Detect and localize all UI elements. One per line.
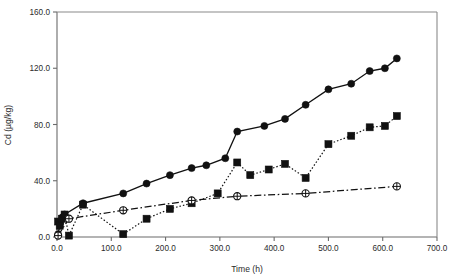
series-path-filled-circle-solid: [58, 58, 397, 234]
x-axis-title: Time (h): [231, 264, 263, 274]
x-tick-label: 200.0: [155, 244, 176, 253]
data-point-marker: [366, 68, 373, 75]
series-path-open-circle-cross-dashdot: [58, 186, 397, 235]
data-point-marker: [302, 174, 309, 181]
series-open-circle-cross-dashdot: [54, 183, 400, 239]
y-tick-label: 40.0: [34, 177, 50, 186]
series-path-filled-square-dotted: [58, 116, 397, 236]
y-tick-label: 80.0: [34, 121, 50, 130]
y-axis-title: Cd (µg/kg): [3, 105, 13, 145]
series-filled-circle-solid: [55, 55, 401, 238]
data-point-marker: [120, 231, 127, 238]
y-tick-label: 0.0: [39, 233, 51, 242]
data-point-marker: [166, 172, 173, 179]
x-tick-label: 300.0: [210, 244, 231, 253]
data-point-marker: [234, 128, 241, 135]
data-point-marker: [214, 190, 221, 197]
x-tick-label: 500.0: [318, 244, 339, 253]
data-point-marker: [222, 155, 229, 162]
data-point-marker: [166, 205, 173, 212]
x-tick-label: 400.0: [264, 244, 285, 253]
data-point-marker: [261, 122, 268, 129]
data-point-marker: [348, 80, 355, 87]
data-point-marker: [65, 232, 72, 239]
x-tick-label: 700.0: [427, 244, 448, 253]
x-tick-label: 0.0: [51, 244, 63, 253]
x-tick-label: 100.0: [101, 244, 122, 253]
series-filled-square-dotted: [55, 113, 401, 240]
data-point-marker: [381, 65, 388, 72]
data-point-marker: [325, 86, 332, 93]
data-point-marker: [120, 190, 127, 197]
data-point-marker: [348, 132, 355, 139]
chart-figure: 0.0100.0200.0300.0400.0500.0600.0700.0 0…: [0, 0, 459, 278]
data-point-marker: [393, 113, 400, 120]
data-point-marker: [302, 101, 309, 108]
x-tick-label: 600.0: [372, 244, 393, 253]
data-series-group: [54, 55, 400, 239]
data-point-marker: [56, 222, 63, 229]
data-point-marker: [143, 180, 150, 187]
plot-frame: [57, 12, 437, 237]
data-point-marker: [282, 115, 289, 122]
data-point-marker: [325, 141, 332, 148]
data-point-marker: [282, 160, 289, 167]
data-point-marker: [203, 162, 210, 169]
data-point-marker: [393, 55, 400, 62]
data-point-marker: [366, 124, 373, 131]
y-tick-label: 160.0: [30, 8, 51, 17]
data-point-marker: [381, 122, 388, 129]
data-point-marker: [247, 172, 254, 179]
data-point-marker: [188, 165, 195, 172]
data-point-marker: [80, 201, 87, 208]
chart-canvas: 0.0100.0200.0300.0400.0500.0600.0700.0 0…: [0, 0, 459, 278]
data-point-marker: [234, 159, 241, 166]
data-point-marker: [265, 166, 272, 173]
x-axis-ticks: 0.0100.0200.0300.0400.0500.0600.0700.0: [51, 237, 447, 253]
data-point-marker: [143, 215, 150, 222]
y-axis-ticks: 0.040.080.0120.0160.0: [30, 8, 58, 242]
y-tick-label: 120.0: [30, 64, 51, 73]
